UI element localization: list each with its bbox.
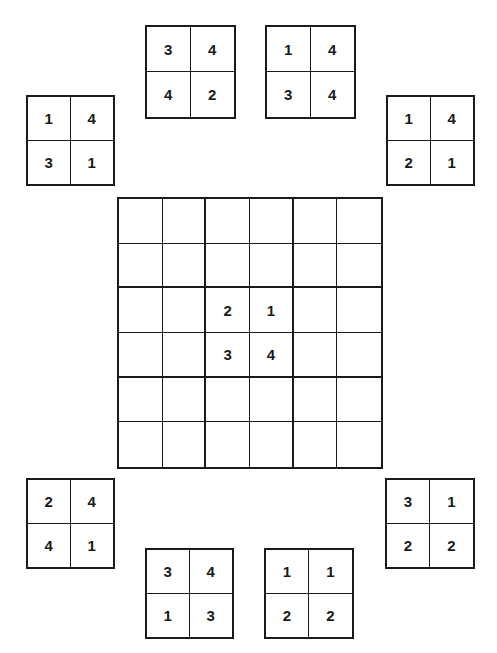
board-cell[interactable]	[163, 199, 207, 244]
board-cell[interactable]	[294, 199, 338, 244]
tile-cell: 4	[71, 97, 114, 141]
board-cell-given: 4	[250, 333, 294, 378]
board-cell[interactable]	[250, 422, 294, 467]
tile-bottom-right[interactable]: 1 1 2 2	[264, 548, 354, 639]
tile-cell: 4	[28, 524, 71, 568]
board-cell[interactable]	[250, 378, 294, 423]
tile-mid-right[interactable]: 1 4 2 1	[386, 95, 475, 186]
board-cell[interactable]	[163, 333, 207, 378]
board-cell[interactable]	[294, 333, 338, 378]
tile-cell: 2	[28, 480, 71, 524]
tile-cell: 1	[309, 550, 352, 594]
tile-cell: 4	[147, 72, 191, 117]
board-cell[interactable]	[206, 199, 250, 244]
tile-cell: 4	[311, 72, 355, 117]
board-cell[interactable]	[337, 422, 381, 467]
tile-mid-left[interactable]: 1 4 3 1	[26, 95, 115, 186]
tile-cell: 4	[191, 27, 235, 72]
board-cell[interactable]	[163, 422, 207, 467]
board-cell[interactable]	[294, 422, 338, 467]
tile-cell: 3	[190, 594, 233, 638]
tile-cell: 4	[431, 97, 474, 141]
tile-cell: 3	[267, 72, 311, 117]
board-cell[interactable]	[206, 244, 250, 289]
board-cell[interactable]	[119, 288, 163, 333]
board-cell[interactable]	[337, 378, 381, 423]
board-cell[interactable]	[119, 422, 163, 467]
tile-cell: 2	[430, 524, 473, 568]
tile-cell: 4	[71, 480, 114, 524]
board-cell[interactable]	[119, 378, 163, 423]
tile-top-left[interactable]: 3 4 4 2	[145, 25, 236, 119]
tile-cell: 2	[309, 594, 352, 638]
tile-cell: 1	[28, 97, 71, 141]
board-cell[interactable]	[294, 288, 338, 333]
tile-lower-right[interactable]: 3 1 2 2	[385, 478, 475, 569]
tile-cell: 1	[267, 27, 311, 72]
board-cell[interactable]	[163, 378, 207, 423]
board-cell[interactable]	[119, 333, 163, 378]
tile-cell: 3	[387, 480, 430, 524]
board-cell[interactable]	[250, 244, 294, 289]
tile-cell: 4	[190, 550, 233, 594]
board-cell[interactable]	[119, 244, 163, 289]
tile-cell: 1	[147, 594, 190, 638]
board-cell[interactable]	[294, 378, 338, 423]
board-cell-given: 2	[206, 288, 250, 333]
puzzle-board: 2 1 3 4	[117, 197, 383, 469]
board-cell[interactable]	[163, 288, 207, 333]
tile-cell: 3	[28, 141, 71, 185]
board-cell[interactable]	[337, 333, 381, 378]
board-cell[interactable]	[337, 288, 381, 333]
tile-top-right[interactable]: 1 4 3 4	[265, 25, 356, 119]
tile-lower-left[interactable]: 2 4 4 1	[26, 478, 115, 569]
board-cell[interactable]	[206, 422, 250, 467]
tile-cell: 2	[388, 141, 431, 185]
board-cell[interactable]	[163, 244, 207, 289]
tile-cell: 1	[431, 141, 474, 185]
board-cell[interactable]	[119, 199, 163, 244]
board-cell[interactable]	[337, 244, 381, 289]
board-cell[interactable]	[250, 199, 294, 244]
tile-cell: 1	[71, 141, 114, 185]
board-cell[interactable]	[206, 378, 250, 423]
tile-cell: 2	[266, 594, 309, 638]
board-cell-given: 3	[206, 333, 250, 378]
tile-cell: 2	[387, 524, 430, 568]
board-cell[interactable]	[294, 244, 338, 289]
tile-cell: 1	[388, 97, 431, 141]
tile-cell: 3	[147, 550, 190, 594]
tile-cell: 4	[311, 27, 355, 72]
board-cell-given: 1	[250, 288, 294, 333]
tile-cell: 1	[430, 480, 473, 524]
tile-cell: 2	[191, 72, 235, 117]
tile-cell: 1	[71, 524, 114, 568]
board-cell[interactable]	[337, 199, 381, 244]
tile-bottom-left[interactable]: 3 4 1 3	[145, 548, 234, 639]
tile-cell: 3	[147, 27, 191, 72]
tile-cell: 1	[266, 550, 309, 594]
